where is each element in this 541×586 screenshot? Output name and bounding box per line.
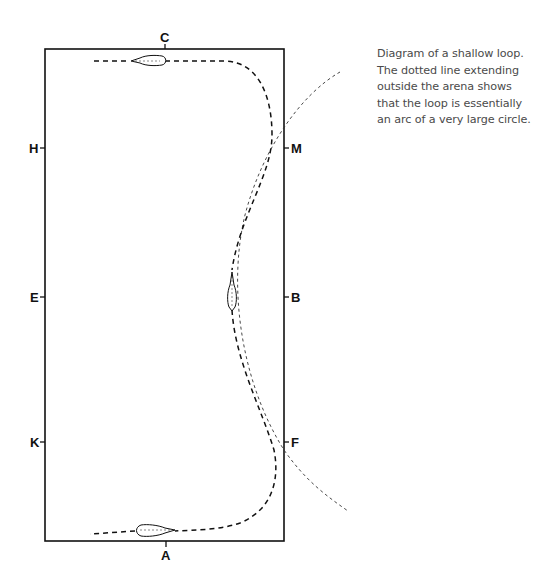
marker-C: C <box>160 31 169 44</box>
horse-bottom-icon <box>137 525 176 537</box>
figure-caption: Diagram of a shallow loop. The dotted li… <box>377 46 537 129</box>
marker-H: H <box>29 142 38 155</box>
arena-ticks <box>40 44 289 547</box>
marker-B: B <box>291 291 300 304</box>
marker-F: F <box>291 436 299 449</box>
marker-K: K <box>30 436 39 449</box>
arena-outline <box>45 49 284 541</box>
marker-A: A <box>161 549 170 562</box>
marker-E: E <box>30 291 39 304</box>
shallow-loop-route <box>90 61 276 534</box>
horse-middle-icon <box>228 272 237 311</box>
marker-M: M <box>291 142 302 155</box>
horse-top-icon <box>131 55 166 65</box>
